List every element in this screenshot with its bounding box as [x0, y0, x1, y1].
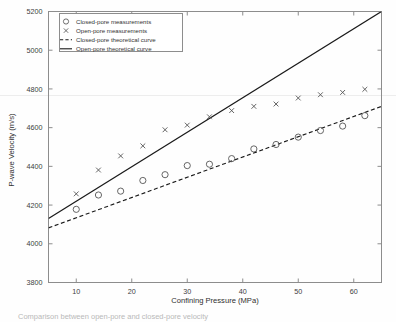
y-tick-label: 4000	[27, 239, 43, 248]
plot-frame	[49, 12, 382, 283]
measurement-markers	[73, 87, 368, 213]
x-axis-ticks: 102030405060	[72, 12, 358, 296]
open-pore-data-point	[274, 102, 279, 107]
y-tick-label: 4600	[27, 123, 43, 132]
open-pore-data-point	[74, 191, 79, 196]
closed-pore-data-point	[317, 127, 323, 133]
open-pore-data-point	[362, 87, 367, 92]
closed-pore-data-point	[162, 172, 168, 178]
y-tick-label: 5000	[27, 46, 43, 55]
x-tick-label: 30	[183, 287, 191, 296]
closed-pore-data-point	[73, 206, 79, 212]
closed-pore-data-point	[340, 123, 346, 129]
y-tick-label: 4200	[27, 201, 43, 210]
chart-legend: Closed-pore measurementsOpen-pore measur…	[60, 14, 183, 53]
closed-pore-data-point	[140, 177, 146, 183]
legend-item-label: Open-pore theoretical curve	[76, 45, 152, 52]
open-pore-data-point	[163, 127, 168, 132]
open-pore-data-point	[96, 168, 101, 173]
x-tick-label: 40	[239, 287, 247, 296]
y-tick-label: 4800	[27, 85, 43, 94]
closed-pore-data-point	[118, 188, 124, 194]
closed-pore-data-point	[206, 161, 212, 167]
closed-pore-data-point	[95, 192, 101, 198]
closed-pore-data-point	[184, 162, 190, 168]
open-pore-data-point	[340, 90, 345, 95]
open-pore-data-point	[318, 92, 323, 97]
closed-pore-data-point	[251, 146, 257, 152]
x-tick-label: 60	[350, 287, 358, 296]
x-axis-title: Confining Pressure (MPa)	[171, 296, 259, 305]
y-axis-title: P-wave Velocity (m/s)	[7, 113, 16, 186]
legend-item-label: Open-pore measurements	[76, 27, 147, 34]
figure-caption: Comparison between open-pore and closed-…	[18, 312, 208, 321]
open-pore-data-point	[140, 143, 145, 148]
closed-pore-data-point	[362, 113, 368, 119]
pwave-velocity-scatter-chart: 38004000420044004600480050005200 1020304…	[0, 0, 396, 322]
open-pore-data-point	[296, 96, 301, 101]
legend-item-label: Closed-pore theoretical curve	[76, 36, 156, 43]
legend-item-label: Closed-pore measurements	[76, 18, 151, 25]
open-pore-data-point	[118, 154, 123, 159]
curve-closed-pore-theoretical-curve	[49, 106, 382, 228]
y-tick-label: 5200	[27, 7, 43, 16]
x-tick-label: 10	[72, 287, 80, 296]
x-tick-label: 20	[128, 287, 136, 296]
x-tick-label: 50	[294, 287, 302, 296]
open-pore-data-point	[185, 123, 190, 128]
open-pore-data-point	[229, 108, 234, 113]
open-pore-data-point	[251, 104, 256, 109]
figure-container: 38004000420044004600480050005200 1020304…	[0, 0, 396, 322]
y-tick-label: 4400	[27, 162, 43, 171]
y-tick-label: 3800	[27, 278, 43, 287]
